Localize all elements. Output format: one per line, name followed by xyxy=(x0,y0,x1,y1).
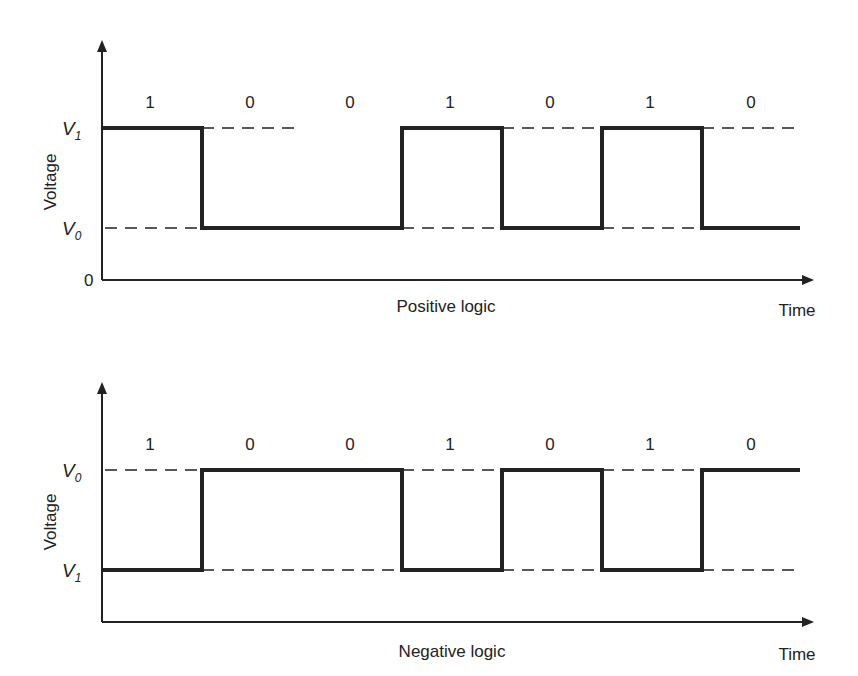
positive-logic-panel: V1 V0 0 Voltage Positive logic Time 1 0 … xyxy=(41,42,816,320)
x-axis-label: Time xyxy=(778,645,815,664)
svg-text:0: 0 xyxy=(545,93,554,112)
panel-title: Positive logic xyxy=(396,297,496,316)
svg-text:0: 0 xyxy=(245,435,254,454)
v1-label: V1 xyxy=(62,560,81,585)
signal-waveform xyxy=(102,470,800,570)
bit-labels: 1 0 0 1 0 1 0 xyxy=(145,435,755,454)
svg-text:1: 1 xyxy=(145,93,154,112)
svg-text:0: 0 xyxy=(746,93,755,112)
panel-title: Negative logic xyxy=(399,642,506,661)
svg-text:1: 1 xyxy=(145,435,154,454)
v1-label: V1 xyxy=(62,118,81,143)
signal-waveform xyxy=(102,128,800,228)
svg-text:1: 1 xyxy=(445,435,454,454)
reference-lines xyxy=(105,128,800,228)
svg-text:0: 0 xyxy=(245,93,254,112)
svg-text:1: 1 xyxy=(645,435,654,454)
negative-logic-panel: V0 V1 Voltage Negative logic Time 1 0 0 … xyxy=(41,384,816,664)
y-axis-label: Voltage xyxy=(41,494,60,551)
bit-labels: 1 0 0 1 0 1 0 xyxy=(145,93,755,112)
x-axis-label: Time xyxy=(778,301,815,320)
logic-diagram: V1 V0 0 Voltage Positive logic Time 1 0 … xyxy=(0,0,858,676)
y-axis-label: Voltage xyxy=(41,154,60,211)
zero-label: 0 xyxy=(84,271,93,290)
svg-text:1: 1 xyxy=(645,93,654,112)
v0-label: V0 xyxy=(62,460,82,485)
svg-text:0: 0 xyxy=(345,93,354,112)
v0-label: V0 xyxy=(62,218,82,243)
svg-text:0: 0 xyxy=(746,435,755,454)
svg-text:0: 0 xyxy=(545,435,554,454)
svg-text:0: 0 xyxy=(345,435,354,454)
reference-lines xyxy=(105,470,800,570)
svg-text:1: 1 xyxy=(445,93,454,112)
